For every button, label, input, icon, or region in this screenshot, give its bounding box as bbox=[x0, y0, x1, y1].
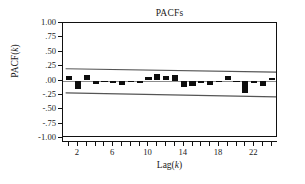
plot-frame bbox=[62, 22, 277, 137]
y-axis-label: PACF(k) bbox=[10, 21, 20, 101]
bar bbox=[198, 81, 204, 83]
x-axis-tick-label: 6 bbox=[102, 147, 122, 157]
y-axis-line bbox=[62, 22, 63, 141]
x-axis-label: Lag(k) bbox=[62, 160, 277, 170]
x-axis-tick-mark bbox=[244, 141, 245, 146]
x-axis-tick-mark bbox=[130, 141, 131, 146]
y-axis-tick-label: -.50 bbox=[22, 103, 56, 113]
x-axis-tick-mark bbox=[112, 141, 113, 146]
x-axis-tick-mark bbox=[271, 141, 272, 146]
bar bbox=[260, 81, 266, 86]
y-axis-tick-label: .75 bbox=[22, 31, 56, 41]
x-axis-tick-mark bbox=[77, 141, 78, 146]
y-axis-tick-label: .00 bbox=[22, 75, 56, 85]
bar bbox=[110, 81, 116, 84]
x-axis-tick-mark bbox=[165, 141, 166, 146]
bar bbox=[128, 81, 134, 83]
bar bbox=[101, 81, 107, 83]
x-axis-tick-mark bbox=[253, 141, 254, 146]
x-axis-tick-mark bbox=[192, 141, 193, 146]
x-axis-tick-label: 18 bbox=[208, 147, 228, 157]
y-axis-tick-label: -.25 bbox=[22, 89, 56, 99]
y-axis-tick-label: .50 bbox=[22, 46, 56, 56]
y-axis-tick-label: -.75 bbox=[22, 118, 56, 128]
x-axis-tick-mark bbox=[139, 141, 140, 146]
bar bbox=[172, 75, 178, 81]
bar bbox=[225, 76, 231, 80]
pacf-chart-figure: PACFs PACF(k) 1.00.75.50.25.00-.25-.50-.… bbox=[0, 0, 305, 184]
bar bbox=[154, 74, 160, 81]
x-axis-tick-mark bbox=[227, 141, 228, 146]
bar bbox=[269, 78, 275, 80]
x-axis-tick-mark bbox=[86, 141, 87, 146]
bar bbox=[93, 81, 99, 84]
x-axis-tick-labels: 2610141822 bbox=[62, 147, 277, 159]
bar bbox=[216, 81, 222, 83]
y-axis-tick-labels: 1.00.75.50.25.00-.25-.50-.75-1.00 bbox=[22, 22, 56, 137]
bar bbox=[163, 76, 169, 80]
bar bbox=[84, 75, 90, 80]
x-axis-tick-mark bbox=[209, 141, 210, 146]
x-axis-tick-mark bbox=[95, 141, 96, 146]
x-axis-tick-label: 2 bbox=[67, 147, 87, 157]
x-axis-tick-mark bbox=[103, 141, 104, 146]
bar bbox=[242, 81, 248, 94]
x-axis-tick-mark bbox=[174, 141, 175, 146]
chart-title: PACFs bbox=[62, 8, 277, 18]
x-axis-tick-mark bbox=[200, 141, 201, 146]
x-axis-tick-mark bbox=[121, 141, 122, 146]
bar bbox=[181, 81, 187, 88]
lower-confidence-band bbox=[63, 23, 276, 136]
x-axis-tick-mark bbox=[156, 141, 157, 146]
bar bbox=[233, 81, 239, 83]
bar bbox=[145, 77, 151, 80]
x-axis-tick-mark bbox=[147, 141, 148, 146]
plot-area bbox=[63, 23, 276, 136]
y-axis-tick-label: -1.00 bbox=[22, 132, 56, 142]
x-axis-tick-mark bbox=[183, 141, 184, 146]
bar bbox=[189, 81, 195, 86]
x-axis-tick-label: 22 bbox=[243, 147, 263, 157]
lower-confidence-line bbox=[63, 23, 276, 136]
y-axis-tick-label: 1.00 bbox=[22, 17, 56, 27]
x-axis-tick-marks bbox=[62, 141, 277, 146]
y-axis-tick-label: .25 bbox=[22, 60, 56, 70]
bar bbox=[119, 81, 125, 85]
bar bbox=[251, 81, 257, 84]
bar bbox=[66, 76, 72, 81]
bar bbox=[207, 81, 213, 85]
bar bbox=[137, 81, 143, 83]
x-axis-tick-mark bbox=[236, 141, 237, 146]
x-axis-tick-label: 14 bbox=[173, 147, 193, 157]
x-axis-tick-label: 10 bbox=[137, 147, 157, 157]
x-axis-tick-mark bbox=[68, 141, 69, 146]
x-axis-tick-mark bbox=[262, 141, 263, 146]
x-axis-tick-mark bbox=[218, 141, 219, 146]
bar bbox=[75, 81, 81, 89]
